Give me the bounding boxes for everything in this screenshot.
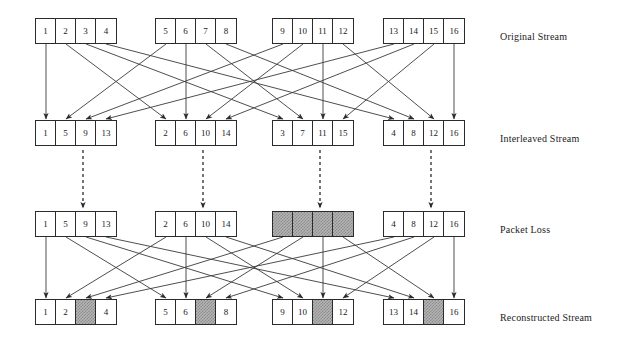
packet-cell[interactable]: 6 — [176, 19, 196, 43]
deinterleave-connectors — [46, 237, 454, 298]
packet-cell[interactable]: 6 — [176, 212, 196, 236]
packet-cell[interactable]: 1 — [36, 300, 56, 324]
packet-cell[interactable]: 13 — [384, 19, 404, 43]
packet-cell[interactable]: 10 — [293, 19, 313, 43]
packet-cell[interactable]: 13 — [384, 300, 404, 324]
packet-cell-lost[interactable] — [424, 300, 444, 324]
packet-cell[interactable]: 7 — [293, 121, 313, 145]
packet-cell[interactable]: 4 — [384, 212, 404, 236]
packet-group[interactable]: 124 — [35, 299, 117, 325]
packet-group[interactable]: 568 — [155, 299, 237, 325]
packet-cell[interactable]: 2 — [56, 19, 76, 43]
packet-cell[interactable]: 1 — [36, 212, 56, 236]
packet-cell[interactable]: 15 — [424, 19, 444, 43]
packet-cell[interactable]: 4 — [96, 19, 116, 43]
packet-cell[interactable]: 16 — [444, 19, 464, 43]
packet-group[interactable]: 5678 — [155, 18, 237, 44]
packet-cell[interactable]: 9 — [76, 212, 96, 236]
packet-cell-lost[interactable] — [196, 300, 216, 324]
packet-group[interactable]: 261014 — [155, 211, 237, 237]
packet-cell[interactable]: 8 — [216, 19, 236, 43]
packet-cell[interactable]: 1 — [36, 19, 56, 43]
packet-cell[interactable]: 9 — [76, 121, 96, 145]
packet-cell[interactable]: 14 — [404, 300, 424, 324]
packet-cell[interactable]: 2 — [156, 212, 176, 236]
packet-cell[interactable]: 4 — [384, 121, 404, 145]
packet-cell[interactable]: 14 — [216, 121, 236, 145]
packet-cell[interactable]: 13 — [96, 121, 116, 145]
packet-cell[interactable]: 2 — [56, 300, 76, 324]
packet-cell[interactable]: 8 — [216, 300, 236, 324]
packet-cell[interactable]: 10 — [196, 212, 216, 236]
interleave-connectors — [46, 44, 454, 119]
packet-group[interactable]: 481216 — [383, 120, 465, 146]
transmission-dashed-arrows — [83, 150, 431, 208]
packet-cell-lost[interactable] — [313, 212, 333, 236]
packet-cell[interactable]: 13 — [96, 212, 116, 236]
packet-cell[interactable]: 12 — [424, 121, 444, 145]
packet-cell-lost[interactable] — [333, 212, 353, 236]
packet-group[interactable]: 13141516 — [383, 18, 465, 44]
row-label-interleaved-stream: Interleaved Stream — [500, 133, 579, 144]
packet-cell[interactable]: 9 — [273, 19, 293, 43]
packet-cell[interactable]: 16 — [444, 212, 464, 236]
packet-cell[interactable]: 6 — [176, 300, 196, 324]
row-label-reconstructed-stream: Reconstructed Stream — [500, 312, 592, 323]
packet-cell[interactable]: 11 — [313, 19, 333, 43]
packet-cell[interactable]: 10 — [196, 121, 216, 145]
packet-cell[interactable]: 3 — [273, 121, 293, 145]
packet-group[interactable]: 131416 — [383, 299, 465, 325]
stream-row-interleaved-stream: 15913261014371115481216Interleaved Strea… — [0, 120, 642, 146]
packet-cell[interactable]: 11 — [313, 121, 333, 145]
row-label-original-stream: Original Stream — [500, 31, 567, 42]
packet-cell[interactable]: 2 — [156, 121, 176, 145]
packet-cell[interactable]: 8 — [404, 121, 424, 145]
packet-cell[interactable]: 8 — [404, 212, 424, 236]
row-label-packet-loss: Packet Loss — [500, 224, 550, 235]
packet-group[interactable]: 481216 — [383, 211, 465, 237]
packet-cell[interactable]: 10 — [293, 300, 313, 324]
stream-row-original-stream: 12345678910111213141516Original Stream — [0, 18, 642, 44]
packet-group[interactable]: 261014 — [155, 120, 237, 146]
connector-lines-layer — [0, 0, 642, 349]
packet-cell[interactable]: 14 — [216, 212, 236, 236]
packet-cell[interactable]: 6 — [176, 121, 196, 145]
packet-cell-lost[interactable] — [273, 212, 293, 236]
packet-cell[interactable]: 1 — [36, 121, 56, 145]
packet-cell[interactable]: 9 — [273, 300, 293, 324]
packet-cell[interactable]: 14 — [404, 19, 424, 43]
packet-cell-lost[interactable] — [313, 300, 333, 324]
packet-cell[interactable]: 7 — [196, 19, 216, 43]
packet-group[interactable]: 15913 — [35, 120, 117, 146]
packet-cell[interactable]: 16 — [444, 300, 464, 324]
packet-cell[interactable]: 5 — [156, 19, 176, 43]
packet-cell[interactable]: 3 — [76, 19, 96, 43]
packet-cell[interactable]: 15 — [333, 121, 353, 145]
packet-cell-lost[interactable] — [76, 300, 96, 324]
stream-row-reconstructed-stream: 12456891012131416Reconstructed Stream — [0, 299, 642, 325]
packet-group[interactable] — [272, 211, 354, 237]
packet-cell[interactable]: 5 — [56, 212, 76, 236]
packet-cell[interactable]: 12 — [333, 19, 353, 43]
packet-cell[interactable]: 4 — [96, 300, 116, 324]
packet-cell[interactable]: 16 — [444, 121, 464, 145]
packet-group[interactable]: 9101112 — [272, 18, 354, 44]
packet-cell-lost[interactable] — [293, 212, 313, 236]
packet-cell[interactable]: 12 — [333, 300, 353, 324]
packet-cell[interactable]: 5 — [56, 121, 76, 145]
packet-group[interactable]: 15913 — [35, 211, 117, 237]
packet-group[interactable]: 91012 — [272, 299, 354, 325]
stream-row-packet-loss: 15913261014481216Packet Loss — [0, 211, 642, 237]
diagram-canvas: 12345678910111213141516Original Stream15… — [0, 0, 642, 349]
packet-group[interactable]: 371115 — [272, 120, 354, 146]
packet-cell[interactable]: 12 — [424, 212, 444, 236]
packet-group[interactable]: 1234 — [35, 18, 117, 44]
packet-cell[interactable]: 5 — [156, 300, 176, 324]
